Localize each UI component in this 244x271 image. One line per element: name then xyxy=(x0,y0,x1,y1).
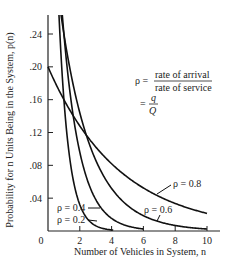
y-tick-label: .24 xyxy=(30,29,43,40)
leader-rho-0-6 xyxy=(157,215,160,221)
x-tick-label: 2 xyxy=(77,235,82,246)
x-tick-label: 10 xyxy=(202,235,212,246)
y-axis-label: Probability for n Units Being in the Sys… xyxy=(4,32,16,227)
x-tick-label: 8 xyxy=(173,235,178,246)
y-tick-label: .08 xyxy=(30,160,43,171)
y-tick-label: .16 xyxy=(30,94,43,105)
curves xyxy=(48,15,207,230)
leader-rho-0-8 xyxy=(157,185,171,194)
rho-definition: ρ = rate of arrival rate of service = q … xyxy=(135,69,212,116)
curve-rho-0-2 xyxy=(59,15,113,230)
chart: .04.08.12.16.20.240246810 Number of Vehi… xyxy=(0,0,244,271)
curve-label-rho-0-6: ρ = 0.6 xyxy=(144,204,172,215)
x-axis-label: Number of Vehicles in System, n xyxy=(74,246,206,257)
curve-label-rho-0-2: ρ = 0.2 xyxy=(57,214,85,225)
curve-rho-0-6 xyxy=(61,15,207,229)
curve-rho-0-4 xyxy=(62,15,143,229)
rho-def-denominator: rate of service xyxy=(155,82,212,93)
rho-def-lhs: ρ = xyxy=(135,75,148,86)
y-tick-label: .04 xyxy=(30,193,43,204)
x-tick-label: 6 xyxy=(141,235,146,246)
rho-eq2-lhs: = xyxy=(140,98,146,109)
curve-label-rho-0-8: ρ = 0.8 xyxy=(173,178,201,189)
x-tick-label: 0 xyxy=(39,235,44,246)
x-tick-label: 4 xyxy=(109,235,114,246)
rho-eq2-denominator: Q xyxy=(149,105,157,116)
y-tick-label: .12 xyxy=(30,127,43,138)
y-tick-label: .20 xyxy=(30,61,43,72)
rho-def-numerator: rate of arrival xyxy=(155,69,210,80)
curve-label-rho-0-4: ρ = 0.4 xyxy=(57,202,85,213)
rho-eq2-numerator: q xyxy=(151,92,156,103)
